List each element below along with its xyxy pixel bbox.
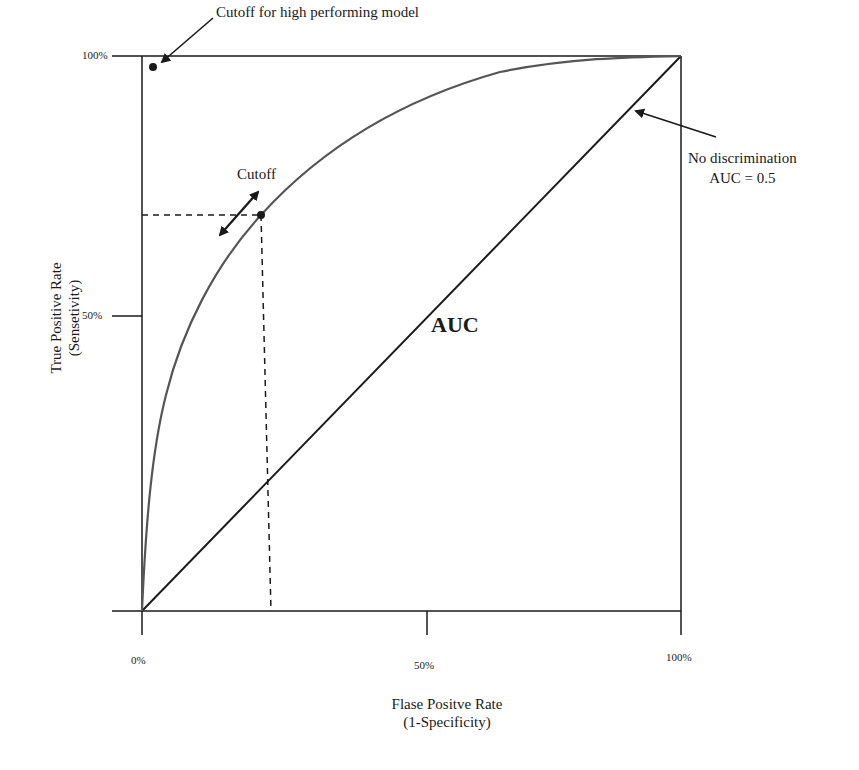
no-discrimination-line [142,56,681,611]
y-axis-title: True Positive Rate (Sensetivity) [47,228,83,408]
high-performance-annotation: Cutoff for high performing model [216,4,419,21]
y-tick-label-50: 50% [82,309,102,321]
auc-label: AUC [431,312,479,338]
x-tick-label-50: 50% [414,659,434,671]
x-axis-title: Flase Positve Rate (1-Specificity) [357,695,537,731]
high-performance-point [149,63,157,71]
no-discrimination-arrow-icon [636,111,716,137]
y-axis-title-sub: (Sensetivity) [65,228,83,408]
cutoff-point [257,211,265,219]
x-axis-title-sub: (1-Specificity) [357,713,537,731]
y-axis-title-main: True Positive Rate [47,228,65,408]
cutoff-double-arrow-icon [220,192,258,235]
x-axis-title-main: Flase Positve Rate [357,695,537,713]
no-discrimination-line2: AUC = 0.5 [688,168,797,188]
x-tick-label-0: 0% [131,654,146,666]
roc-chart [0,0,859,770]
cutoff-annotation: Cutoff [237,166,276,183]
cutoff-vertical-guide [261,215,271,611]
x-tick-label-100: 100% [666,651,692,663]
no-discrimination-line1: No discrimination [688,148,797,168]
no-discrimination-annotation: No discrimination AUC = 0.5 [688,148,797,188]
y-tick-label-100: 100% [82,49,108,61]
